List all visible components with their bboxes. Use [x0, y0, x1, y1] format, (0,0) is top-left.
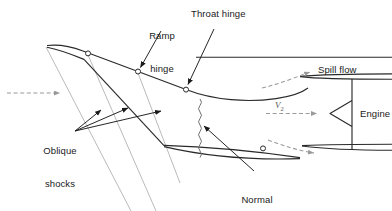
throat-hinge-label: Throat hinge: [191, 8, 246, 19]
throat-to-diffuser: [186, 88, 308, 100]
engine-cone-icon: [330, 101, 352, 127]
ramp-hinge-label-line1: Ramp: [136, 30, 188, 41]
inlet-diagram-figure: Ramp hinge Throat hinge Spill flow Engin…: [0, 0, 392, 211]
cowl-lip-lower: [302, 144, 392, 150]
cowl-flap-hinge-marker[interactable]: [261, 146, 266, 151]
oblique-shocks-label-line2: shocks: [30, 178, 90, 189]
cowl-lip-lower-edge: [302, 144, 392, 145]
engine-symbol: [330, 79, 352, 150]
cowl-lip-lower-inner: [302, 146, 392, 150]
spill-flow-arrow-upper: [262, 72, 310, 88]
spill-flow-label: Spill flow: [318, 64, 357, 75]
ramp-hinge-label-line2: hinge: [136, 63, 188, 74]
lower-cowl-flap: [164, 145, 300, 159]
ramp-segment-1: [83, 51, 138, 72]
oblique-shocks-label-line1: Oblique: [30, 145, 90, 156]
normal-shock-label-line1: Normal: [228, 194, 286, 205]
normal-shock-label: Normal shock: [228, 172, 286, 211]
normal-shock-leader: [204, 126, 254, 171]
cowl-lip-upper-inner: [300, 77, 392, 80]
engine-label: Engine: [360, 108, 390, 119]
normal-shock-wave: [199, 99, 202, 158]
oblique-shocks-label: Oblique shocks: [30, 123, 90, 211]
ramp-hinge-label: Ramp hinge: [136, 8, 188, 96]
forward-ramp-hinge-marker[interactable]: [86, 51, 91, 56]
cowl-flap-lower-edge: [164, 147, 300, 159]
velocity-subscript: 2: [281, 105, 284, 112]
velocity-station-2-label: V2: [275, 100, 284, 112]
